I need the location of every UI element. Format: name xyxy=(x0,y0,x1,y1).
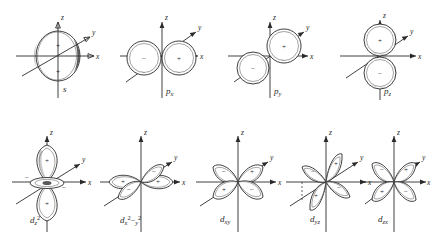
orbital-pz-drawing: z x y + − xyxy=(332,6,432,106)
axis-label-z: z xyxy=(382,11,386,20)
orbital-label-px: px xyxy=(166,86,173,97)
axis-label-z: z xyxy=(240,128,244,137)
lobe-sign: + xyxy=(378,37,382,45)
axis-label-z: z xyxy=(164,13,168,22)
orbital-dzx: z x y + − + − dzx xyxy=(360,126,434,238)
lobe-sign: + xyxy=(177,55,181,63)
axis-label-z: z xyxy=(328,128,332,137)
lobe-sign: + xyxy=(222,186,226,194)
orbital-dz2-drawing: z x y + + − − xyxy=(6,126,102,238)
lobe-sign: + xyxy=(282,43,286,51)
orbital-label-pz: pz xyxy=(384,86,391,97)
lobe-sign: + xyxy=(404,166,408,174)
lobe-sign: + xyxy=(45,157,49,165)
orbital-label-dxy: dxy xyxy=(220,214,230,225)
orbital-dx2y2: z x y + + − − dx2−y2 xyxy=(96,126,196,238)
orbital-s-drawing: z x y + + xyxy=(8,6,108,106)
axis-label-y: y xyxy=(173,153,178,162)
axis-label-x: x xyxy=(95,52,100,61)
lobe-sign: − xyxy=(142,55,146,63)
axis-label-y: y xyxy=(197,23,202,32)
orbital-label-dx2y2: dx2−y2 xyxy=(120,214,141,226)
orbital-px: z x y − + px xyxy=(112,6,212,106)
lobe-sign: − xyxy=(250,186,254,194)
axis-label-x: x xyxy=(309,52,314,61)
orbital-dxy-drawing: z x y + − + − xyxy=(190,126,290,238)
lobe-sign: + xyxy=(121,178,125,186)
orbital-diagram: z x y + + s xyxy=(0,0,434,245)
axis-label-y: y xyxy=(409,27,414,36)
lobe-sign: + xyxy=(56,42,60,50)
axis-label-x: x xyxy=(417,52,422,61)
lobe-sign: − xyxy=(251,65,255,73)
lobe-sign: − xyxy=(152,168,156,176)
orbital-px-drawing: z x y − + xyxy=(112,6,212,106)
orbital-dxy: z x y + − + − dxy xyxy=(190,126,290,238)
orbital-label-s: s xyxy=(63,84,67,95)
lobe-sign: − xyxy=(222,168,226,176)
axis-label-z: z xyxy=(49,128,53,137)
axis-label-z: z xyxy=(143,128,147,137)
axis-label-y: y xyxy=(269,153,274,162)
lobe-sign: + xyxy=(380,188,384,196)
lobe-sign: − xyxy=(380,166,384,174)
lobe-sign: + xyxy=(45,200,49,208)
axis-label-y: y xyxy=(91,28,96,37)
axis-label-y: y xyxy=(305,23,310,32)
orbital-label-dyz: dyz xyxy=(310,214,320,225)
axis-label-x: x xyxy=(87,178,92,187)
lobe-sign: + xyxy=(250,168,254,176)
lobe-sign: + xyxy=(156,178,160,186)
axis-label-z: z xyxy=(396,128,400,137)
lobes-px: − + xyxy=(127,41,196,75)
lobe-sign: − xyxy=(311,168,315,176)
axis-label-y: y xyxy=(421,153,426,162)
orbital-dz2: z x y + + − − dz2 xyxy=(6,126,102,238)
orbital-py-drawing: z x y − + xyxy=(220,6,320,106)
lobe-sign: − xyxy=(25,174,29,182)
lobe-sign: + xyxy=(334,160,338,168)
lobe-sign: − xyxy=(378,70,382,78)
axis-label-x: x xyxy=(181,178,186,187)
lobe-sign: − xyxy=(404,188,408,196)
axis-label-x: x xyxy=(199,52,204,61)
orbital-py: z x y − + py xyxy=(220,6,320,106)
lobe-sign: − xyxy=(337,184,341,192)
lobes-dz2: + + − − xyxy=(25,145,66,221)
lobe-sign: − xyxy=(62,184,66,192)
orbital-label-dz2: dz2 xyxy=(30,214,40,226)
orbital-dx2y2-drawing: z x y + + − − xyxy=(96,126,196,238)
axis-label-y: y xyxy=(81,155,86,164)
axis-label-z: z xyxy=(60,13,64,22)
orbital-label-dzx: dzx xyxy=(378,214,388,225)
lobe-sign: + xyxy=(56,68,60,76)
axis-label-x: x xyxy=(426,178,431,187)
lobe-sign: + xyxy=(314,192,318,200)
orbital-pz: z x y + − pz xyxy=(332,6,432,106)
lobe-sign: − xyxy=(127,186,131,194)
orbital-label-py: py xyxy=(274,86,281,97)
orbital-dzx-drawing: z x y + − + − xyxy=(360,126,434,238)
orbital-s: z x y + + s xyxy=(8,6,108,106)
axis-label-z: z xyxy=(272,13,276,22)
lobes-s: + + xyxy=(34,31,80,81)
